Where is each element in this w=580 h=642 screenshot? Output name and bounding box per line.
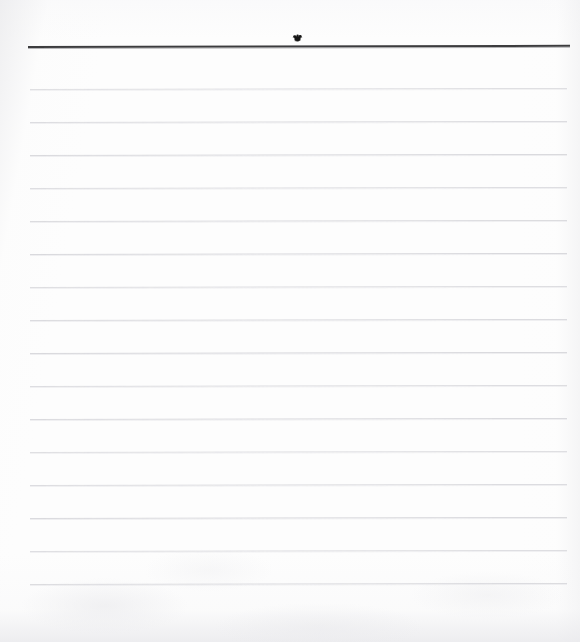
paper-background: [0, 0, 580, 642]
notebook-page: [0, 0, 580, 642]
header-rule: [28, 45, 570, 48]
ink-blot-icon: [291, 33, 304, 42]
